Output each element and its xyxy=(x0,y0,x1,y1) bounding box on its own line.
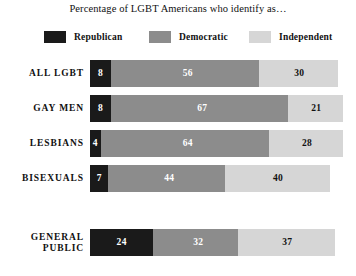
bar-segment-value: 44 xyxy=(164,174,174,184)
bar-row: LESBIANS46428 xyxy=(0,130,356,157)
bar-track: 46428 xyxy=(90,130,343,157)
bar-row: GENERAL PUBLIC243237 xyxy=(0,229,356,256)
bar-segment-republican: 4 xyxy=(90,130,101,157)
legend-label-independent: Independent xyxy=(279,32,332,42)
legend-item-republican: Republican xyxy=(44,29,122,44)
row-label-bisexuals: BISEXUALS xyxy=(0,165,84,192)
bar-segment-republican: 8 xyxy=(90,60,111,87)
legend-item-democratic: Democratic xyxy=(149,29,228,44)
bar-segment-value: 8 xyxy=(98,104,103,114)
bar-segment-democratic: 56 xyxy=(111,60,259,87)
bar-segment-value: 24 xyxy=(117,238,127,248)
legend-item-independent: Independent xyxy=(249,29,332,44)
bar-segment-democratic: 32 xyxy=(153,229,237,256)
bar-track: 86721 xyxy=(90,95,343,122)
bar-segment-value: 30 xyxy=(294,69,304,79)
legend-swatch-democratic-icon xyxy=(149,31,171,43)
row-label-all-lgbt: ALL LGBT xyxy=(0,60,84,87)
bar-group-general-public: GENERAL PUBLIC243237 xyxy=(0,229,356,256)
legend-swatch-independent-icon xyxy=(249,31,271,43)
legend-swatch-republican-icon xyxy=(44,31,66,43)
row-label-lesbians: LESBIANS xyxy=(0,130,84,157)
bar-segment-value: 7 xyxy=(97,174,102,184)
bar-track: 74440 xyxy=(90,165,330,192)
bar-row: GAY MEN86721 xyxy=(0,95,356,122)
bar-segment-value: 37 xyxy=(282,238,292,248)
legend-label-republican: Republican xyxy=(74,32,122,42)
row-label-general-public: GENERAL PUBLIC xyxy=(0,229,84,256)
bar-segment-democratic: 64 xyxy=(101,130,270,157)
bar-segment-democratic: 44 xyxy=(108,165,224,192)
bar-segment-value: 67 xyxy=(197,104,207,114)
bar-segment-value: 8 xyxy=(98,69,103,79)
bar-segment-value: 4 xyxy=(93,139,98,149)
bar-group-lgbt: ALL LGBT85630GAY MEN86721LESBIANS46428BI… xyxy=(0,60,356,192)
chart-container: Percentage of LGBT Americans who identif… xyxy=(0,0,356,276)
bar-segment-value: 28 xyxy=(302,139,312,149)
bar-track: 85630 xyxy=(90,60,338,87)
bar-segment-democratic: 67 xyxy=(111,95,288,122)
bar-track: 243237 xyxy=(90,229,335,256)
bar-row: BISEXUALS74440 xyxy=(0,165,356,192)
legend-label-democratic: Democratic xyxy=(179,32,228,42)
bar-segment-value: 64 xyxy=(183,139,193,149)
bar-segment-independent: 21 xyxy=(288,95,343,122)
bar-segment-independent: 37 xyxy=(238,229,336,256)
bar-segment-value: 40 xyxy=(273,174,283,184)
bar-segment-independent: 30 xyxy=(259,60,338,87)
bar-segment-value: 21 xyxy=(311,104,321,114)
bar-segment-value: 56 xyxy=(183,69,193,79)
bar-segment-republican: 8 xyxy=(90,95,111,122)
row-label-gay-men: GAY MEN xyxy=(0,95,84,122)
chart-legend: Republican Democratic Independent xyxy=(44,29,344,44)
bar-segment-value: 32 xyxy=(193,238,203,248)
bar-segment-republican: 7 xyxy=(90,165,108,192)
chart-title: Percentage of LGBT Americans who identif… xyxy=(0,3,356,14)
bar-segment-republican: 24 xyxy=(90,229,153,256)
bar-segment-independent: 28 xyxy=(269,130,343,157)
bar-row: ALL LGBT85630 xyxy=(0,60,356,87)
bar-segment-independent: 40 xyxy=(225,165,331,192)
